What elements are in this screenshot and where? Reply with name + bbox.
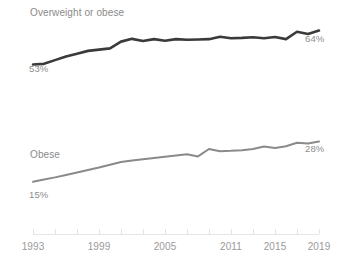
series-label-obese: Obese <box>30 150 60 160</box>
x-axis-tick-label: 2015 <box>264 242 287 252</box>
chart-plot-area <box>0 0 344 266</box>
x-axis <box>33 229 319 235</box>
end-value-label-overweight-or-obese: 64% <box>305 34 324 44</box>
series-line-overweight-or-obese <box>33 31 319 65</box>
x-axis-tick-label: 1999 <box>88 242 111 252</box>
x-axis-tick-label: 2005 <box>154 242 177 252</box>
line-chart: Overweight or obese 53% 64% Obese 15% 28… <box>0 0 344 266</box>
x-axis-tick-label: 2011 <box>220 242 242 252</box>
x-axis-tick-label: 1993 <box>22 242 45 252</box>
x-axis-ticks <box>33 229 319 234</box>
x-axis-tick-label: 2019 <box>308 242 331 252</box>
end-value-label-obese: 28% <box>305 144 324 154</box>
start-value-label-overweight-or-obese: 53% <box>29 64 48 74</box>
start-value-label-obese: 15% <box>29 190 48 200</box>
series-label-overweight-or-obese: Overweight or obese <box>30 8 124 18</box>
series-line-obese <box>33 142 319 182</box>
